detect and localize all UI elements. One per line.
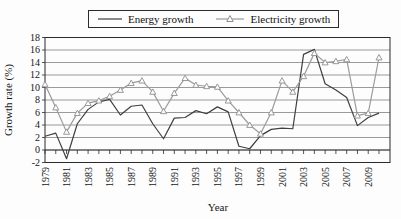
y-tick-label: 16 [30, 44, 40, 55]
x-axis-title: Year [208, 201, 229, 213]
y-axis-title: Growth rate (%) [2, 64, 15, 136]
y-tick-label: 14 [30, 57, 40, 68]
gridlines [45, 38, 390, 163]
y-tick-label: 12 [30, 69, 40, 80]
triangle-marker [53, 105, 59, 110]
triangle-marker [182, 75, 188, 80]
y-tick-label: 2 [35, 132, 40, 143]
electricity-line-sample-icon [215, 14, 245, 24]
triangle-marker [42, 81, 48, 86]
triangle-marker [107, 93, 113, 98]
y-tick-label: 0 [35, 144, 40, 155]
legend-item-energy: Energy growth [97, 14, 193, 25]
y-tick-label: -2 [32, 157, 40, 168]
x-tick-label: 1999 [255, 167, 266, 187]
x-tick-label: 2005 [320, 167, 331, 187]
x-tick-label: 1991 [169, 167, 180, 187]
x-tick-label: 1985 [104, 167, 115, 187]
y-tick-label: 8 [35, 94, 40, 105]
legend-item-electricity: Electricity growth [215, 14, 330, 25]
x-tick-label: 1993 [190, 167, 201, 187]
legend-label-electricity: Electricity growth [250, 14, 330, 25]
triangle-marker [344, 56, 350, 61]
chart-legend: Energy growth Electricity growth [88, 10, 339, 28]
x-tick-label: 1983 [83, 167, 94, 187]
electricity-growth-line [45, 53, 379, 134]
triangle-marker [64, 129, 70, 134]
y-tick-label: 4 [35, 119, 40, 130]
x-tick-label: 1979 [40, 167, 51, 187]
chart-plot-area: -202468101214161819791981198319851987198… [0, 0, 401, 219]
triangle-marker [279, 78, 285, 83]
triangle-marker [161, 108, 167, 113]
x-tick-label: 1997 [233, 167, 244, 187]
triangle-marker [139, 78, 145, 83]
x-tick-label: 1995 [212, 167, 223, 187]
triangle-marker [301, 73, 307, 78]
x-tick-label: 1981 [61, 167, 72, 187]
growth-rate-chart: Energy growth Electricity growth -202468… [0, 0, 401, 219]
x-tick-label: 1987 [126, 167, 137, 187]
x-tick-label: 2003 [298, 167, 309, 187]
data-series [42, 49, 382, 158]
x-tick-label: 1989 [147, 167, 158, 187]
x-tick-label: 2009 [363, 167, 374, 187]
y-tick-label: 6 [35, 107, 40, 118]
y-tick-label: 18 [30, 32, 40, 43]
y-tick-label: 10 [30, 82, 40, 93]
x-tick-label: 2001 [277, 167, 288, 187]
triangle-marker [376, 55, 382, 60]
energy-growth-line [45, 49, 379, 158]
energy-line-sample-icon [97, 14, 123, 24]
legend-label-energy: Energy growth [128, 14, 193, 25]
x-tick-label: 2007 [341, 167, 352, 187]
